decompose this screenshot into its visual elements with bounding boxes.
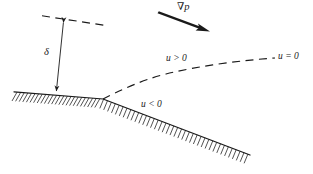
- hatched-wall: [12, 92, 250, 164]
- dividing-streamline: [103, 58, 275, 99]
- boundary-layer-edge-line: [42, 16, 108, 26]
- boundary-layer-thickness-label: δ: [44, 47, 49, 58]
- pressure-gradient-shaft: [158, 11, 203, 29]
- wall-hatching-downstream: [100, 99, 248, 163]
- diagram-canvas: [0, 0, 313, 174]
- zero-velocity-label: u = 0: [278, 52, 299, 62]
- pressure-gradient-label: ∇p: [177, 2, 190, 13]
- boundary-layer-thickness-arrow: [56, 23, 63, 91]
- reverse-flow-label: u < 0: [141, 100, 162, 110]
- forward-flow-label: u > 0: [166, 54, 187, 64]
- wall-hatching-upstream: [12, 92, 100, 107]
- pressure-gradient-arrow: [158, 11, 211, 31]
- boundary-layer-diagram: δ ∇p u > 0 u < 0 u = 0: [0, 0, 313, 174]
